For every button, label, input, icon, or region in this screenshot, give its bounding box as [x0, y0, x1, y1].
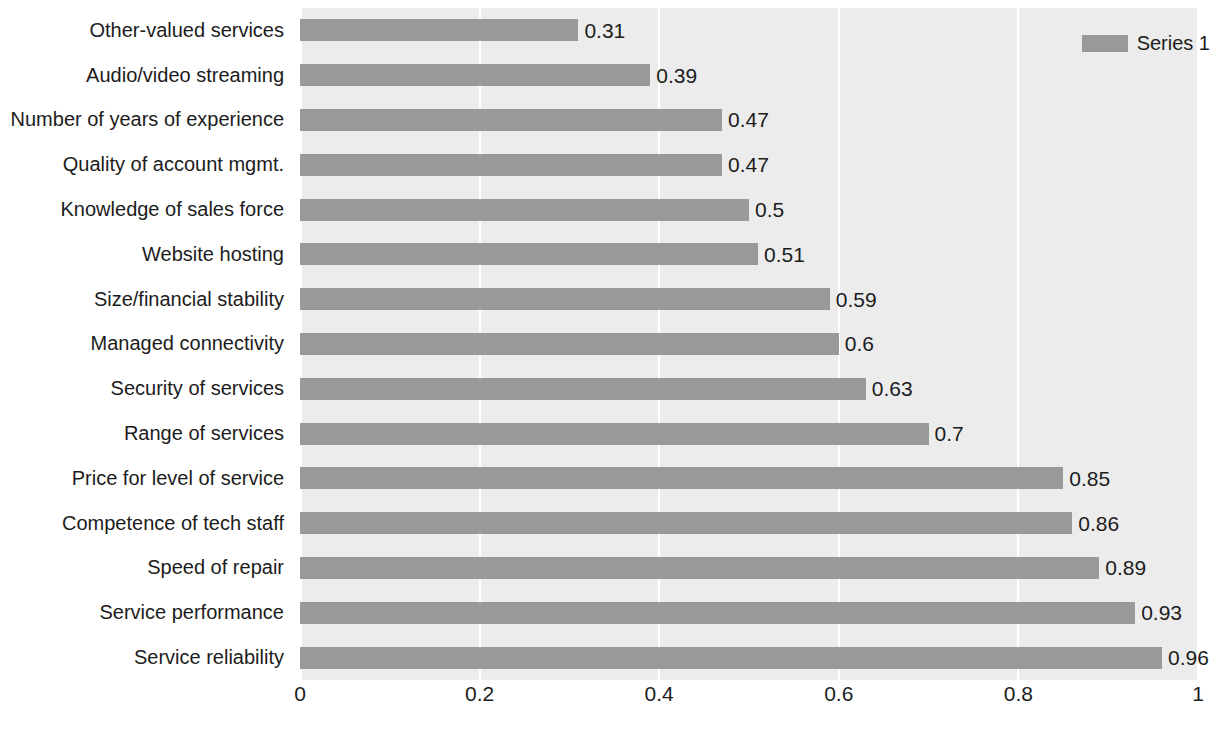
bar-value-label: 0.5	[749, 199, 784, 220]
legend-swatch-series-1	[1082, 35, 1128, 52]
category-label: Price for level of service	[72, 456, 284, 501]
bar-row: 0.5	[300, 187, 1198, 232]
category-label: Quality of account mgmt.	[63, 142, 284, 187]
bar-value-label: 0.51	[758, 244, 805, 265]
category-axis: Other-valued servicesAudio/video streami…	[0, 8, 292, 680]
category-label: Managed connectivity	[91, 322, 284, 367]
bar-value-label: 0.96	[1162, 647, 1209, 668]
bar-value-label: 0.7	[929, 423, 964, 444]
bar-row: 0.93	[300, 590, 1198, 635]
plot-area: 0.310.390.470.470.50.510.590.60.630.70.8…	[300, 8, 1198, 680]
bar-row: 0.47	[300, 98, 1198, 143]
bar-value-label: 0.6	[839, 333, 874, 354]
bar-row: 0.85	[300, 456, 1198, 501]
category-label: Service reliability	[134, 635, 284, 680]
bar-row: 0.47	[300, 142, 1198, 187]
x-tick-label: 0.2	[465, 682, 494, 706]
bar-row: 0.89	[300, 546, 1198, 591]
bar-row: 0.7	[300, 411, 1198, 456]
bar	[300, 647, 1162, 669]
bar	[300, 378, 866, 400]
category-label: Number of years of experience	[11, 98, 284, 143]
x-tick-label: 0	[294, 682, 306, 706]
category-label: Other-valued services	[89, 8, 284, 53]
bar-value-label: 0.31	[578, 20, 625, 41]
bar-value-label: 0.85	[1063, 468, 1110, 489]
bar-chart: 0.310.390.470.470.50.510.590.60.630.70.8…	[0, 0, 1228, 740]
bar-row: 0.63	[300, 366, 1198, 411]
bar-row: 0.59	[300, 277, 1198, 322]
bar-value-label: 0.39	[650, 65, 697, 86]
bar	[300, 19, 578, 41]
bar	[300, 557, 1099, 579]
bar	[300, 109, 722, 131]
bar-value-label: 0.89	[1099, 557, 1146, 578]
bar-row: 0.51	[300, 232, 1198, 277]
bar	[300, 467, 1063, 489]
bar-row: 0.86	[300, 501, 1198, 546]
bar	[300, 243, 758, 265]
category-label: Security of services	[111, 366, 284, 411]
bar	[300, 423, 929, 445]
x-axis: 00.20.40.60.81	[300, 682, 1198, 722]
category-label: Size/financial stability	[94, 277, 284, 322]
x-tick-label: 1	[1192, 682, 1204, 706]
bar	[300, 64, 650, 86]
x-tick-label: 0.8	[1004, 682, 1033, 706]
x-tick-label: 0.4	[645, 682, 674, 706]
bar-row: 0.6	[300, 322, 1198, 367]
bar-value-label: 0.59	[830, 289, 877, 310]
category-label: Range of services	[124, 411, 284, 456]
legend-label-series-1: Series 1	[1137, 32, 1210, 55]
bar-value-label: 0.93	[1135, 602, 1182, 623]
bar-row: 0.96	[300, 635, 1198, 680]
bar	[300, 199, 749, 221]
category-label: Speed of repair	[147, 546, 284, 591]
bar-row: 0.31	[300, 8, 1198, 53]
bar	[300, 602, 1135, 624]
category-label: Website hosting	[142, 232, 284, 277]
bar-value-label: 0.86	[1072, 513, 1119, 534]
bar	[300, 333, 839, 355]
legend: Series 1	[1082, 32, 1210, 55]
bar-value-label: 0.47	[722, 154, 769, 175]
bar	[300, 512, 1072, 534]
category-label: Audio/video streaming	[86, 53, 284, 98]
bar-row: 0.39	[300, 53, 1198, 98]
bar-value-label: 0.63	[866, 378, 913, 399]
bar	[300, 154, 722, 176]
category-label: Knowledge of sales force	[61, 187, 284, 232]
x-tick-label: 0.6	[824, 682, 853, 706]
category-label: Service performance	[99, 590, 284, 635]
bar-rows: 0.310.390.470.470.50.510.590.60.630.70.8…	[300, 8, 1198, 680]
category-label: Competence of tech staff	[62, 501, 284, 546]
bar-value-label: 0.47	[722, 109, 769, 130]
bar	[300, 288, 830, 310]
